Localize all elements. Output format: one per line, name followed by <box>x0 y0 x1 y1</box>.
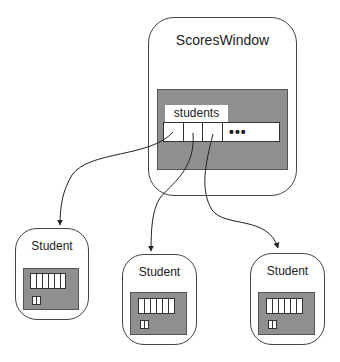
reference-arrows <box>0 0 340 362</box>
arrow-to-student-1 <box>60 132 173 225</box>
arrow-to-student-3 <box>205 134 278 248</box>
arrow-to-student-2 <box>151 133 193 251</box>
